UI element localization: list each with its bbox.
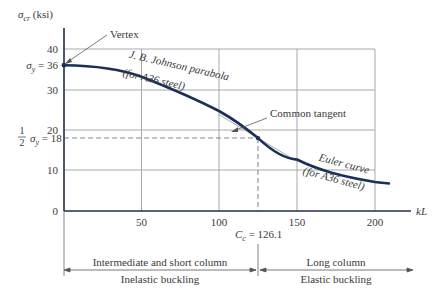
guide-lines <box>64 138 258 211</box>
tangent-arrowhead <box>231 127 238 132</box>
svg-text:1: 1 <box>20 125 25 136</box>
common-tangent-label: Common tangent <box>270 107 346 119</box>
tangent-point <box>256 136 260 140</box>
x-axis-label: kL <box>416 205 427 217</box>
sigma-y-label: σy = 36 <box>26 59 58 74</box>
y-axis-label: σcr (ksi) <box>18 8 53 23</box>
svg-text:0: 0 <box>53 205 59 217</box>
x-tick-labels: 50 100 150 200 <box>136 216 384 228</box>
region-right-top: Long column <box>307 256 366 268</box>
region-left-top: Intermediate and short column <box>93 256 228 268</box>
svg-text:30: 30 <box>47 84 59 96</box>
column-buckling-chart: 40 30 20 10 0 σcr (ksi) σy = 36 1 2 σy =… <box>0 0 446 301</box>
svg-text:200: 200 <box>367 216 384 228</box>
vertex-arrowhead <box>65 58 72 64</box>
svg-text:σy = 18: σy = 18 <box>30 132 62 147</box>
vertex-label: Vertex <box>110 28 139 40</box>
svg-text:50: 50 <box>136 216 148 228</box>
svg-text:150: 150 <box>289 216 306 228</box>
region-arrows <box>64 268 413 272</box>
johnson-label: J. B. Johnson parabola (for A36 steel) <box>122 47 231 102</box>
region-right-bottom: Elastic buckling <box>300 273 372 285</box>
cc-label: Cc = 126.1 <box>235 228 282 243</box>
svg-text:40: 40 <box>47 43 59 55</box>
euler-label: Euler curve (for A36 steel) <box>302 148 371 193</box>
region-left-bottom: Inelastic buckling <box>121 273 200 285</box>
svg-text:10: 10 <box>47 164 59 176</box>
svg-text:100: 100 <box>211 216 228 228</box>
svg-text:2: 2 <box>20 137 25 148</box>
